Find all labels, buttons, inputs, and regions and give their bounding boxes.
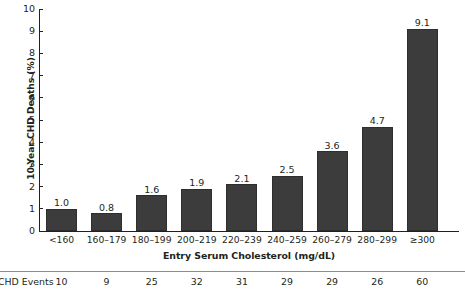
y-axis-tick-label: 2 xyxy=(29,182,39,192)
y-axis-tick-label: 6 xyxy=(29,93,39,103)
bar: 3.6 xyxy=(317,151,348,231)
bar-value-label: 4.7 xyxy=(370,116,385,126)
footer-value: 31 xyxy=(236,277,248,286)
footer-value: 9 xyxy=(104,277,110,286)
footer-divider-rule xyxy=(0,271,465,272)
footer-value: 25 xyxy=(146,277,158,286)
bar-value-label: 1.6 xyxy=(144,185,159,195)
x-axis-tick-label: 160–179 xyxy=(87,235,127,244)
bar-value-label: 2.1 xyxy=(234,174,249,184)
bar: 1.0 xyxy=(46,209,77,231)
bar-value-label: 1.0 xyxy=(54,198,69,208)
footer-value: 32 xyxy=(191,277,203,286)
bar: 4.7 xyxy=(362,127,393,231)
bar: 2.1 xyxy=(226,184,257,231)
y-axis-tick-label: 9 xyxy=(29,26,39,36)
bar: 0.8 xyxy=(91,213,122,231)
bar-value-label: 3.6 xyxy=(325,141,340,151)
x-axis-tick-label: 220–239 xyxy=(222,235,262,244)
y-axis-tick-label: 1 xyxy=(29,204,39,214)
y-axis-tick-label: 3 xyxy=(29,160,39,170)
x-axis-title: Entry Serum Cholesterol (mg/dL) xyxy=(39,250,459,261)
bar: 9.1 xyxy=(407,29,438,231)
x-axis-tick-label: 200–219 xyxy=(177,235,217,244)
x-axis-tick-label: 180–199 xyxy=(132,235,172,244)
x-axis-tick-label: 280–299 xyxy=(357,235,397,244)
y-axis-tick-label: 10 xyxy=(23,4,39,14)
x-axis-tick-label: 240–259 xyxy=(267,235,307,244)
bar: 1.6 xyxy=(136,195,167,231)
footer-value: 10 xyxy=(56,277,68,286)
x-axis-tick-label: 260–279 xyxy=(312,235,352,244)
footer-row-label: CHD Events xyxy=(0,277,54,286)
bar-series-group: 1.00.81.61.92.12.53.64.79.1 xyxy=(39,9,459,231)
footer-value: 26 xyxy=(371,277,383,286)
x-axis-tick-label: ≥300 xyxy=(410,235,435,244)
chd-mortality-bar-chart-figure: 10-Year CHD Deaths (%) 012345678910 1.00… xyxy=(0,0,465,291)
x-axis-tick-label: <160 xyxy=(49,235,74,244)
bar-value-label: 2.5 xyxy=(279,165,294,175)
footer-value: 29 xyxy=(326,277,338,286)
bar-value-label: 0.8 xyxy=(99,203,114,213)
bar-value-label: 1.9 xyxy=(189,178,204,188)
bar-value-label: 9.1 xyxy=(415,18,430,28)
y-axis-tick-label: 4 xyxy=(29,137,39,147)
bar: 2.5 xyxy=(272,176,303,232)
footer-value: 60 xyxy=(416,277,428,286)
bar: 1.9 xyxy=(181,189,212,231)
y-axis-tick-label: 8 xyxy=(29,49,39,59)
x-axis-line xyxy=(39,231,459,232)
y-axis-tick-label: 7 xyxy=(29,71,39,81)
y-axis-tick-label: 5 xyxy=(29,115,39,125)
y-axis-tick-label: 0 xyxy=(29,226,39,236)
footer-value: 29 xyxy=(281,277,293,286)
